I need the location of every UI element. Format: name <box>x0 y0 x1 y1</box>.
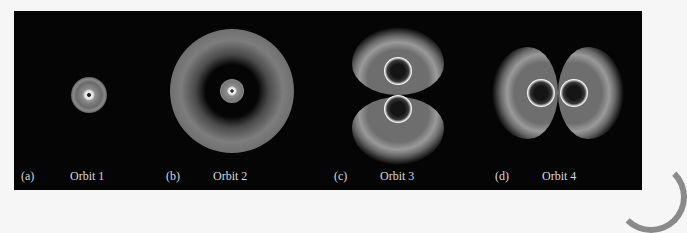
orbit-4-left-ring <box>527 79 555 107</box>
panel-d-letter: (d) <box>495 169 509 184</box>
orbit-1-panel <box>14 11 164 190</box>
orbit-4-panel <box>484 11 642 190</box>
panel-a-title: Orbit 1 <box>70 169 104 184</box>
orbit-3-lower-ring <box>384 95 412 123</box>
panel-c-letter: (c) <box>334 169 347 184</box>
panel-d-title: Orbit 4 <box>542 169 576 184</box>
panel-a-letter: (a) <box>21 169 34 184</box>
orbit-3-upper-ring <box>384 57 412 85</box>
panel-c-title: Orbit 3 <box>380 169 414 184</box>
orbit-1-cloud <box>71 77 107 113</box>
orbit-4-right-ring <box>560 79 588 107</box>
orbit-3-panel <box>334 11 494 190</box>
panel-b-letter: (b) <box>166 169 180 184</box>
orbit-2-inner-core <box>220 79 244 103</box>
panel-b-title: Orbit 2 <box>213 169 247 184</box>
orbital-figure-panel: (a) Orbit 1 (b) Orbit 2 (c) Orbit 3 (d) … <box>14 11 642 190</box>
orbit-2-panel <box>164 11 334 190</box>
